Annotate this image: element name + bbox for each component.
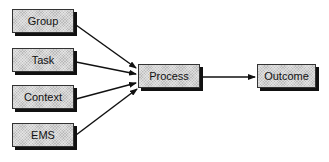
node-context: Context: [12, 85, 74, 109]
edge-group-process: [76, 25, 136, 68]
node-process: Process: [138, 64, 200, 88]
node-task: Task: [12, 48, 74, 72]
node-group: Group: [12, 9, 74, 33]
node-ems: EMS: [12, 123, 74, 147]
edge-task-process: [76, 62, 136, 74]
node-outcome: Outcome: [257, 64, 316, 88]
